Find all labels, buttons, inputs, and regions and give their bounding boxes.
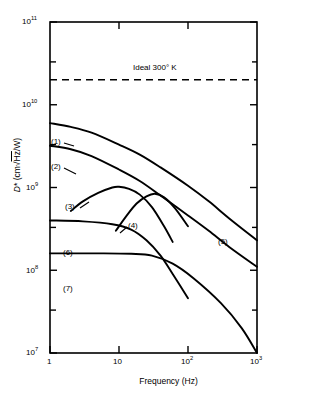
y-tick-label-1e11: 1011 <box>22 17 37 26</box>
y-tick-exp-7: 7 <box>35 346 38 352</box>
x-axis-title-text: Frequency (Hz) <box>113 376 198 386</box>
curve-label-7: (7) <box>63 284 73 293</box>
curve-label-1: (1) <box>51 137 61 146</box>
detectivity-vs-frequency-chart <box>0 0 311 399</box>
figure-container: 1011 1010 109 108 107 1 10 102 103 D* (c… <box>0 0 311 399</box>
y-minor-ticks <box>50 62 56 310</box>
curve-label-4: (4) <box>128 221 138 230</box>
y-tick-exp-8: 8 <box>35 264 38 270</box>
y-major-ticks <box>50 22 57 353</box>
x-tick-label-1000: 103 <box>250 357 262 366</box>
y-tick-exp-11: 11 <box>31 15 37 21</box>
curve-4-path <box>116 194 188 231</box>
y-tick-exp-9: 9 <box>35 181 38 187</box>
label-leader-lines <box>64 143 127 233</box>
y-tick-exp-10: 10 <box>31 98 37 104</box>
curve-7-path <box>50 253 257 353</box>
curve-label-2: (2) <box>51 162 61 171</box>
y-tick-label-1e9: 109 <box>26 183 38 192</box>
y-axis-title: D* (cm√Hz/W) <box>12 120 22 210</box>
x-tick-label-10: 10 <box>113 357 122 366</box>
curve-1-path <box>50 123 257 240</box>
ideal-300k-label: Ideal 300° K <box>133 63 177 72</box>
x-tick-exp-2: 2 <box>190 355 193 361</box>
curve-label-6: (6) <box>63 248 73 257</box>
x-tick-label-1: 1 <box>47 357 51 366</box>
y-tick-label-1e8: 108 <box>26 266 38 275</box>
x-tick-exp-3: 3 <box>259 355 262 361</box>
x-axis-title: Frequency (Hz) <box>0 376 311 386</box>
curve-label-5: (5) <box>218 237 228 246</box>
x-tick-label-100: 102 <box>181 357 193 366</box>
y-tick-label-1e10: 1010 <box>22 100 37 109</box>
y-tick-label-1e7: 107 <box>26 348 38 357</box>
curve-label-3: (3) <box>65 202 75 211</box>
